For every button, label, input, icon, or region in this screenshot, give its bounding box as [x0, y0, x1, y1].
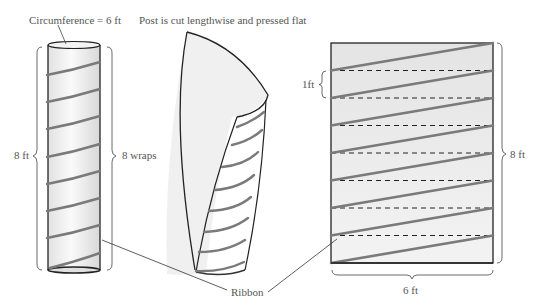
cut-post [166, 32, 268, 275]
height-left-label: 8 ft [14, 150, 29, 161]
circumference-pointer [58, 25, 66, 44]
brace-bottom-6ft [332, 270, 493, 279]
diagram-canvas [0, 0, 535, 307]
caption-label: Post is cut lengthwise and pressed flat [139, 15, 306, 26]
brace-right-8wraps [107, 47, 116, 270]
brace-1ft [319, 71, 326, 98]
height-right-label: 8 ft [510, 149, 525, 160]
brace-left-8ft [33, 47, 42, 270]
cylinder-post [47, 42, 100, 274]
circumference-label: Circumference = 6 ft [29, 15, 121, 26]
ribbon-label: Ribbon [231, 287, 263, 298]
ribbon-pointers [102, 239, 337, 292]
flattened-rectangle [331, 43, 493, 263]
width-bottom-label: 6 ft [403, 285, 418, 296]
one-ft-label: 1ft [302, 79, 314, 90]
brace-right-8ft [497, 43, 506, 263]
wraps-label: 8 wraps [122, 150, 157, 161]
